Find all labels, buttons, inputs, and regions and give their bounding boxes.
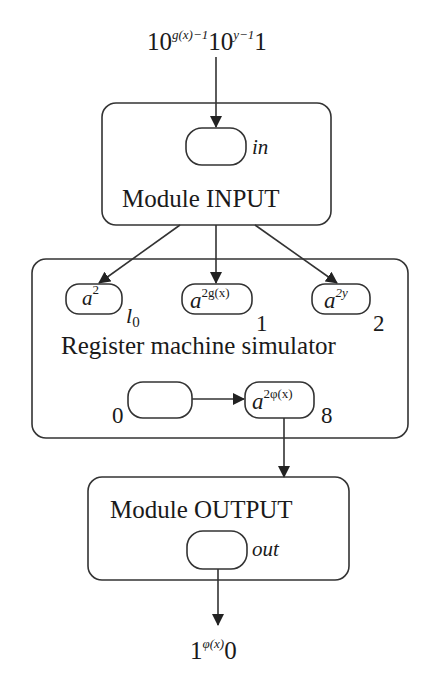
content-exp: 2φ(x) xyxy=(264,386,293,401)
membrane-out-label: out xyxy=(252,539,279,560)
membrane-in-label: in xyxy=(252,137,268,158)
arrow-to-2 xyxy=(255,225,337,283)
input-base-1: 10 xyxy=(147,28,172,55)
output-string: 1φ(x)0 xyxy=(190,638,237,663)
membrane-8-label: 8 xyxy=(321,404,333,427)
membrane-0 xyxy=(128,382,192,418)
content-base: a xyxy=(190,288,202,313)
content-base: a xyxy=(82,286,93,310)
output-exp: φ(x) xyxy=(203,636,225,651)
content-exp: 2 xyxy=(93,282,100,297)
content-exp: 2y xyxy=(336,285,348,300)
membrane-l0-content: a2 xyxy=(82,288,99,309)
label-sub: 0 xyxy=(132,314,140,330)
membrane-0-label: 0 xyxy=(112,404,124,427)
module-output-title: Module OUTPUT xyxy=(110,497,293,522)
input-string: 10g(x)−110y−11 xyxy=(147,29,267,54)
content-exp: 2g(x) xyxy=(202,285,230,300)
input-base-2: 10 xyxy=(208,28,233,55)
output-tail: 0 xyxy=(224,637,237,664)
module-output-box xyxy=(88,477,349,580)
membrane-2-content: a2y xyxy=(324,289,348,312)
membrane-8-content: a2φ(x) xyxy=(252,390,293,413)
arrow-to-l0 xyxy=(99,225,180,283)
output-base: 1 xyxy=(190,637,203,664)
membrane-in xyxy=(186,128,246,165)
content-base: a xyxy=(252,389,264,414)
membrane-l0-label: l0 xyxy=(126,305,140,327)
membrane-out xyxy=(187,531,247,569)
module-input-title: Module INPUT xyxy=(122,186,280,211)
input-tail: 1 xyxy=(254,28,267,55)
input-exp-2: y−1 xyxy=(233,27,254,42)
input-exp-1: g(x)−1 xyxy=(172,27,208,42)
content-base: a xyxy=(324,288,336,313)
membrane-2-label: 2 xyxy=(373,312,385,335)
register-simulator-title: Register machine simulator xyxy=(61,333,336,358)
membrane-1-content: a2g(x) xyxy=(190,289,230,312)
